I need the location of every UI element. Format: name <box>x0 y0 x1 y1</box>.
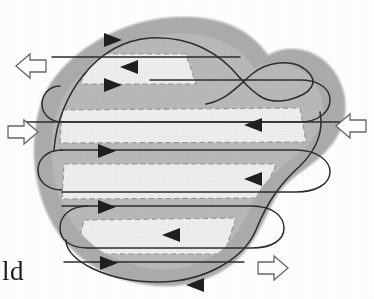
coverage-path-figure <box>0 0 374 299</box>
flow-arrow-top-left <box>16 54 46 78</box>
flow-arrow-bottom-right <box>258 256 288 280</box>
caption-text-fragment: ld <box>2 256 24 286</box>
figure-root: ld <box>0 0 374 299</box>
flow-arrow-middle-left <box>8 120 38 144</box>
